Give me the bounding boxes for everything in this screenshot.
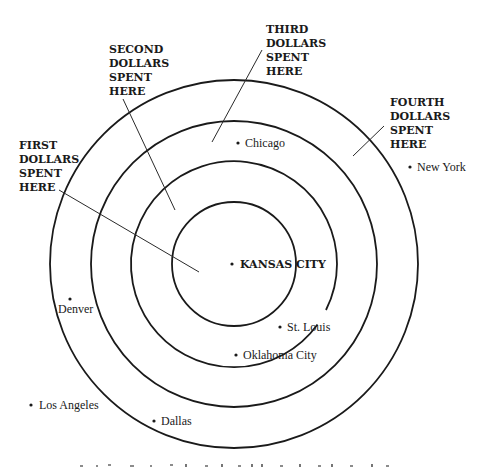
city-dot-icon [68, 297, 71, 300]
city-los-angeles: Los Angeles [29, 398, 99, 412]
city-label: St. Louis [287, 320, 331, 334]
zone-label-line: DOLLARS [19, 153, 79, 166]
city-label: Dallas [161, 414, 192, 428]
zone-label-fourth: FOURTH DOLLARS SPENT HERE [390, 96, 450, 151]
city-new-york: New York [408, 160, 465, 174]
zone-label-line: SPENT [109, 71, 153, 84]
zone-label-line: SPENT [390, 124, 434, 137]
zone-label-line: SECOND [109, 43, 164, 56]
zone-label-line: THIRD [266, 23, 309, 36]
city-dot-icon [236, 141, 239, 144]
zone-label-line: HERE [19, 181, 55, 194]
zone-label-line: DOLLARS [109, 57, 169, 70]
ring-outer [50, 80, 418, 448]
city-dot-icon [234, 353, 237, 356]
city-dot-icon [278, 325, 281, 328]
city-dallas: Dallas [152, 414, 192, 428]
zone-label-third: THIRD DOLLARS SPENT HERE [266, 23, 326, 78]
zone-label-line: SPENT [19, 167, 63, 180]
city-label: Denver [58, 302, 93, 316]
zone-label-line: SPENT [266, 51, 310, 64]
zone-label-line: FOURTH [390, 96, 445, 109]
caption-area [78, 463, 390, 467]
city-label: New York [417, 160, 466, 174]
zone-label-line: DOLLARS [266, 37, 326, 50]
zone-label-line: HERE [109, 85, 145, 98]
caption-truncated [78, 463, 390, 467]
zone-label-line: HERE [390, 138, 426, 151]
ring-third [91, 121, 377, 407]
rings [50, 80, 418, 448]
city-st-louis: St. Louis [278, 320, 330, 334]
city-denver: Denver [58, 297, 93, 316]
leader-first [59, 190, 199, 272]
leader-second [123, 99, 175, 210]
city-label: KANSAS CITY [240, 258, 326, 271]
city-label: Los Angeles [39, 398, 99, 412]
zone-label-line: DOLLARS [390, 110, 450, 123]
zone-label-line: HERE [266, 65, 302, 78]
city-dot-icon [230, 262, 233, 265]
zone-label-second: SECOND DOLLARS SPENT HERE [109, 43, 169, 98]
city-dot-icon [408, 165, 411, 168]
city-label: Chicago [245, 136, 285, 150]
city-oklahoma-city: Oklahoma City [234, 348, 316, 362]
leader-third [212, 50, 262, 142]
city-chicago: Chicago [236, 136, 285, 150]
zone-label-line: FIRST [19, 139, 58, 152]
zone-label-first: FIRST DOLLARS SPENT HERE [19, 139, 79, 194]
city-dot-icon [29, 403, 32, 406]
city-kansas-city: KANSAS CITY [230, 258, 326, 271]
city-label: Oklahoma City [243, 348, 317, 362]
city-dot-icon [152, 419, 155, 422]
leader-lines [59, 50, 384, 272]
concentric-spending-diagram: FIRST DOLLARS SPENT HERE SECOND DOLLARS … [0, 0, 488, 467]
